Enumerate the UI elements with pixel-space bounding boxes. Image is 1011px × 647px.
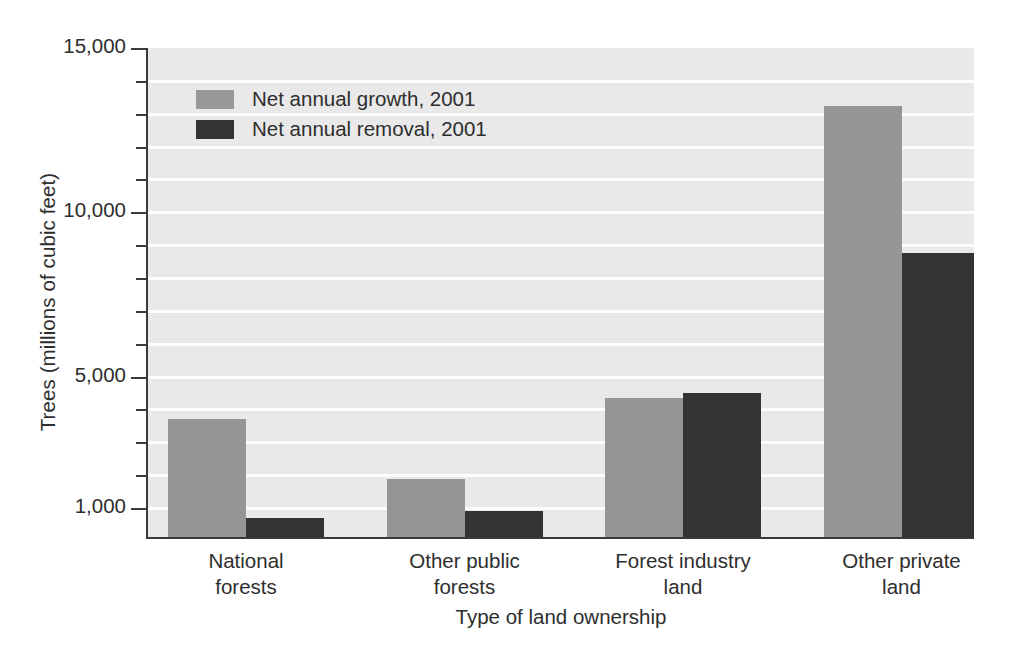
legend-swatch-growth-icon [196, 90, 234, 109]
category-label-line: Other public [355, 548, 575, 574]
y-axis-tick-label: 15,000 [6, 34, 126, 58]
y-axis-major-tick [131, 508, 146, 510]
y-axis-minor-tick [136, 147, 146, 149]
bar-removal [246, 518, 324, 537]
y-axis-minor-tick [136, 344, 146, 346]
y-axis-major-tick [131, 48, 146, 50]
legend-swatch-removal-icon [196, 120, 234, 139]
y-axis-minor-tick [136, 278, 146, 280]
y-axis-minor-tick [136, 245, 146, 247]
bar-growth [605, 398, 683, 537]
category-label-line: forests [355, 574, 575, 600]
bar-removal [902, 253, 975, 537]
x-axis-category-label: Nationalforests [136, 548, 356, 600]
y-axis-minor-tick [136, 442, 146, 444]
category-label-line: land [573, 574, 793, 600]
x-axis-line [146, 537, 974, 539]
y-axis-minor-tick [136, 475, 146, 477]
bar-chart: Trees (millions of cubic feet) 15,00010,… [0, 0, 1011, 647]
y-axis-major-tick [131, 377, 146, 379]
legend-label-growth: Net annual growth, 2001 [252, 87, 475, 111]
legend: Net annual growth, 2001 Net annual remov… [196, 84, 487, 144]
y-axis-minor-tick [136, 409, 146, 411]
y-axis-tick-label: 1,000 [6, 494, 126, 518]
y-axis-tick-label: 10,000 [6, 198, 126, 222]
y-axis-minor-tick [136, 114, 146, 116]
y-axis-title: Trees (millions of cubic feet) [36, 102, 60, 502]
y-axis-minor-tick [136, 81, 146, 83]
bar-growth [168, 419, 246, 537]
x-axis-category-label: Other privateland [792, 548, 1011, 600]
y-axis-line [146, 48, 148, 539]
x-axis-category-label: Forest industryland [573, 548, 793, 600]
x-axis-title: Type of land ownership [148, 605, 974, 629]
gridline [148, 80, 974, 83]
legend-label-removal: Net annual removal, 2001 [252, 117, 487, 141]
bar-removal [683, 393, 761, 537]
category-label-line: National [136, 548, 356, 574]
y-axis-minor-tick [136, 179, 146, 181]
bar-growth [387, 479, 465, 537]
y-axis-minor-tick [136, 311, 146, 313]
category-label-line: forests [136, 574, 356, 600]
bar-removal [465, 511, 543, 537]
category-label-line: Other private [792, 548, 1011, 574]
category-label-line: land [792, 574, 1011, 600]
x-axis-category-label: Other publicforests [355, 548, 575, 600]
legend-item-growth: Net annual growth, 2001 [196, 84, 487, 114]
legend-item-removal: Net annual removal, 2001 [196, 114, 487, 144]
category-label-line: Forest industry [573, 548, 793, 574]
y-axis-major-tick [131, 212, 146, 214]
y-axis-tick-label: 5,000 [6, 363, 126, 387]
bar-growth [824, 106, 902, 537]
